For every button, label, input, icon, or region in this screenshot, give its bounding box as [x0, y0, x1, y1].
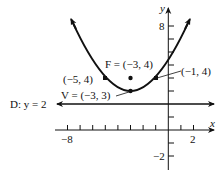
x-axis-label: x [209, 117, 215, 129]
left-point-label: (−5, 4) [63, 73, 93, 86]
focus-label: F = (−3, 4) [105, 58, 153, 71]
parabola-graph: x −8 2 y 8 −2 D: y = 2 [0, 0, 222, 177]
x-axis: x −8 2 [55, 117, 215, 145]
vertex-point [128, 89, 132, 93]
y-axis: y 8 −2 [153, 2, 174, 170]
x-axis-ticks [68, 125, 194, 130]
x-tick-label-neg8: −8 [61, 133, 73, 145]
directrix-label: D: y = 2 [10, 98, 46, 110]
right-point-label: (−1, 4) [181, 65, 211, 78]
x-tick-label-2: 2 [190, 133, 196, 145]
vertex-leader-line [116, 92, 129, 96]
focus-point [128, 76, 132, 80]
y-axis-label: y [159, 2, 165, 14]
left-point [103, 76, 107, 80]
y-axis-ticks [168, 26, 174, 156]
y-tick-label-8: 8 [159, 20, 165, 32]
y-tick-label-neg2: −2 [153, 150, 165, 162]
directrix-line: D: y = 2 [10, 98, 214, 110]
vertex-label: V = (−3, 3) [61, 89, 111, 102]
